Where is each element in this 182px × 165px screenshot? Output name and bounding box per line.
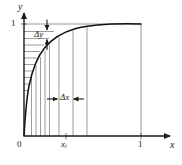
y-axis-label: y xyxy=(18,2,22,12)
delta-y-annotation: Δy xyxy=(34,30,43,39)
delta-x-annotation: Δx xyxy=(60,93,69,102)
riemann-sum-figure: y x 1 0 1 xi Δy Δx xyxy=(0,0,182,165)
figure-canvas xyxy=(0,0,182,165)
bounding-frame xyxy=(24,24,141,136)
x-tick-label-xi: xi xyxy=(61,140,67,150)
x-tick-label-0: 0 xyxy=(17,140,22,149)
y-tick-label-1: 1 xyxy=(11,19,16,28)
x-tick-label-1: 1 xyxy=(138,140,143,149)
x-axis-label: x xyxy=(170,140,174,150)
x-i-subscript: i xyxy=(65,143,67,149)
vertical-strip-lines xyxy=(32,27,88,137)
curve-path xyxy=(24,24,141,136)
